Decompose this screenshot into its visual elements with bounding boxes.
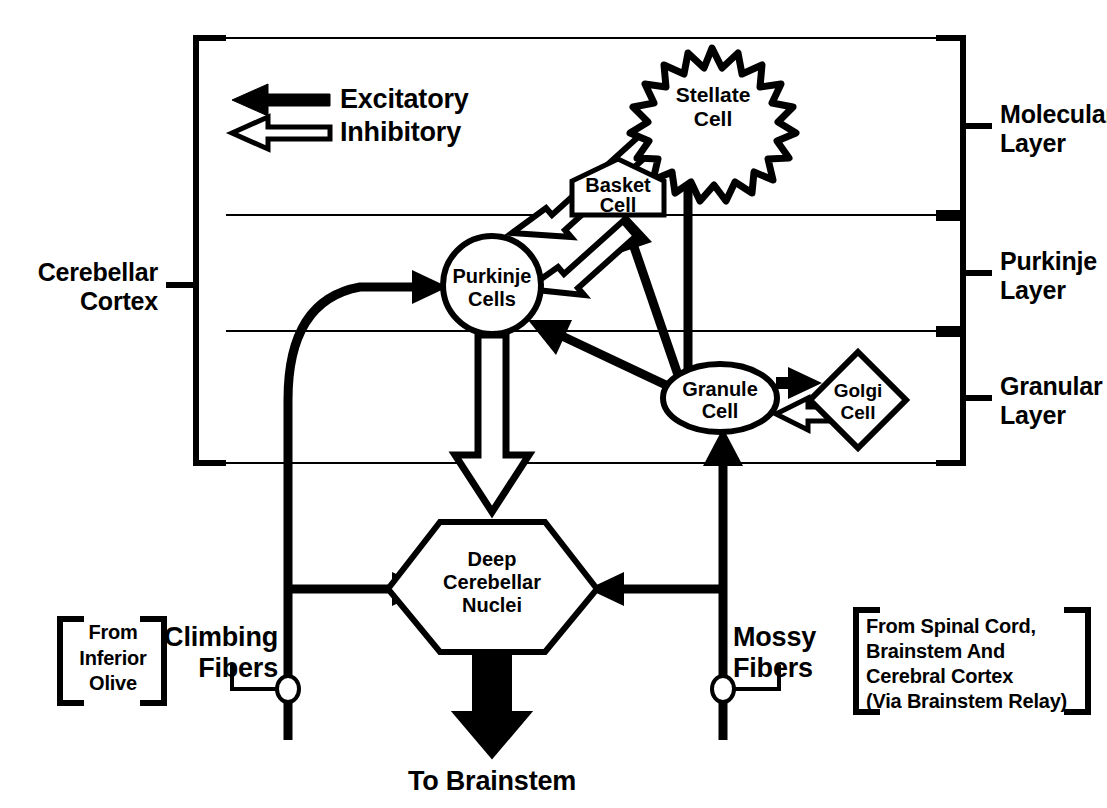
node-basket-cell[interactable]: Basket Cell [572, 159, 664, 216]
purkinje-label-line2: Cells [468, 288, 516, 310]
mossy-fiber-path [588, 428, 779, 740]
stellate-label-line1: Stellate [676, 83, 751, 106]
golgi-label-line2: Cell [841, 402, 876, 423]
legend-inhibitory-arrow [232, 117, 330, 149]
deep-nuclei-label-line3: Nuclei [462, 594, 522, 616]
mossy-fibers-label: Mossy Fibers [733, 622, 853, 684]
basket-label-line1: Basket [585, 174, 651, 196]
edge-purkinje-to-deep-nuclei [455, 335, 529, 512]
purkinje-layer-label: Purkinje Layer [1000, 247, 1107, 305]
deep-nuclei-label-line1: Deep [468, 548, 517, 570]
node-granule-cell[interactable]: Granule Cell [663, 364, 777, 432]
basket-label-line2: Cell [600, 194, 637, 216]
mossy-source-line-2: Brainstem And [866, 640, 1005, 663]
node-purkinje-cells[interactable]: Purkinje Cells [443, 236, 541, 334]
legend-inhibitory-label: Inhibitory [340, 117, 461, 148]
mossy-source-line-1: From Spinal Cord, [866, 615, 1036, 638]
molecular-layer-label: Molecular Layer [1000, 100, 1107, 158]
stellate-label-line2: Cell [694, 107, 733, 130]
climbing-fibers-label: Climbing Fibers [150, 622, 278, 684]
granule-label-line2: Cell [702, 400, 739, 422]
legend-excitatory-label: Excitatory [340, 84, 469, 115]
node-deep-cerebellar-nuclei[interactable]: Deep Cerebellar Nuclei [388, 522, 597, 652]
mossy-fiber-terminal [712, 676, 734, 702]
deep-nuclei-label-line2: Cerebellar [443, 571, 541, 593]
mossy-source-line-4: (Via Brainstem Relay) [866, 690, 1067, 713]
molecular-layer-bracket [936, 38, 992, 213]
purkinje-layer-bracket [936, 218, 992, 329]
cerebellar-cortex-label: Cerebellar Cortex [0, 258, 158, 316]
to-brainstem-label: To Brainstem [352, 766, 632, 797]
cerebellar-cortex-bracket [166, 38, 226, 463]
granular-layer-label: Granular Layer [1000, 372, 1107, 430]
climbing-fiber-terminal [277, 676, 299, 702]
granular-layer-bracket [936, 334, 992, 463]
granule-label-line1: Granule [682, 378, 758, 400]
diagram-canvas: Stellate Cell Basket Cell Purkinje Cells… [0, 0, 1107, 808]
legend-excitatory-arrow [232, 84, 330, 116]
inferior-olive-source-label: From Inferior Olive [68, 620, 158, 697]
mossy-source-line-3: Cerebral Cortex [866, 665, 1013, 688]
node-golgi-cell[interactable]: Golgi Cell [810, 352, 906, 448]
golgi-label-line1: Golgi [834, 380, 883, 401]
purkinje-label-line1: Purkinje [453, 265, 532, 287]
edge-deep-nuclei-to-brainstem [453, 650, 531, 758]
